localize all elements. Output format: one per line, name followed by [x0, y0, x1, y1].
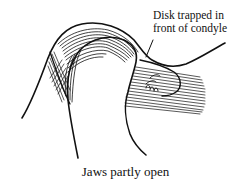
muscle-fibers: [125, 67, 205, 114]
jaw-joint-diagram: Disk trapped in front of condyle Jaws pa…: [0, 0, 243, 183]
callout-leader-line: [146, 40, 153, 57]
disk-callout-label: Disk trapped in front of condyle: [153, 9, 227, 34]
figure-caption: Jaws partly open: [0, 164, 243, 179]
callout-line-2: front of condyle: [153, 22, 227, 35]
arched-fibers: [58, 29, 138, 72]
callout-line-1: Disk trapped in: [153, 9, 227, 22]
